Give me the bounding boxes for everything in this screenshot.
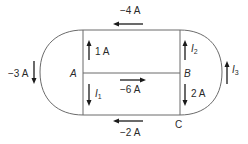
middle-current-label: −6 A bbox=[120, 84, 141, 95]
node-label-b: B bbox=[184, 68, 191, 79]
top-current-arrow bbox=[113, 22, 143, 27]
node-label-c: C bbox=[175, 119, 182, 130]
right-arc-current-label: I3 bbox=[232, 64, 239, 76]
left-upper-current-label: 1 A bbox=[95, 46, 110, 57]
left-lower-current-arrow bbox=[87, 84, 92, 106]
left-upper-current-arrow bbox=[87, 40, 92, 60]
left-arc-current-label: −3 A bbox=[8, 68, 29, 79]
left-lower-current-label: I1 bbox=[95, 88, 102, 100]
middle-current-arrow bbox=[120, 78, 146, 83]
right-lower-current-arrow bbox=[183, 84, 188, 106]
right-arc-current-arrow bbox=[225, 61, 230, 84]
node-label-a: A bbox=[69, 68, 77, 79]
circuit-diagram: −4 A −6 A −2 A −3 A 1 A I1 I2 2 A bbox=[0, 0, 248, 144]
left-arc-current-arrow bbox=[32, 61, 37, 84]
right-upper-current-label: I2 bbox=[191, 43, 198, 55]
bottom-current-label: −2 A bbox=[120, 127, 141, 138]
right-upper-current-arrow bbox=[183, 40, 188, 60]
top-current-label: −4 A bbox=[120, 5, 141, 16]
right-lower-current-label: 2 A bbox=[191, 88, 206, 99]
bottom-current-arrow bbox=[113, 119, 143, 124]
